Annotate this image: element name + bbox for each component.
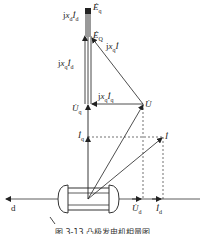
jxqI-label: jxqİ — [106, 42, 119, 53]
figure-caption: 图 3-13 凸极发电机相量图 — [0, 226, 205, 234]
Uq-label: U̇q — [72, 104, 82, 115]
jxdId-label: jxdİd — [63, 11, 79, 22]
jxqIq-label: jxqİq — [98, 92, 114, 103]
jxqId-label: jxqİd — [58, 59, 74, 70]
Ud-label: U̇d — [132, 204, 142, 215]
pointer-mark — [50, 217, 55, 224]
Iq-label: İq — [78, 131, 84, 142]
I-label: İ — [165, 132, 168, 141]
U-phasor — [88, 105, 143, 199]
jxdId-phasor — [85, 10, 91, 37]
Eq-arrowhead — [85, 8, 91, 14]
d-axis-label: d — [11, 204, 16, 213]
Eq-label: Ėq — [93, 3, 102, 14]
I-phasor — [88, 138, 162, 199]
EQ-label: ĖQ — [93, 31, 103, 42]
U-label: U̇ — [145, 100, 152, 109]
Id-label: İd — [156, 204, 162, 215]
